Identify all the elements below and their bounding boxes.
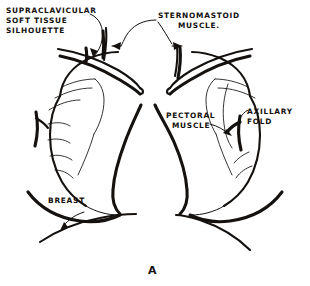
right-sternomastoid-shadow-inner (175, 46, 177, 76)
mediastinal-border-left (113, 105, 141, 214)
right-rib-marking-4 (236, 166, 252, 178)
right-pectoral-curve-2 (223, 84, 232, 148)
label-axillary-line1: AXILLARY (247, 107, 293, 116)
left-clavicle-lateral-tip (140, 88, 143, 94)
left-sternomastoid-shadow (103, 31, 104, 58)
left-breast-shadow (40, 214, 136, 242)
panel-label: A (148, 264, 157, 277)
right-rib-marking-1 (215, 79, 248, 87)
label-breast: BREAST (48, 196, 85, 205)
right-lung-lower-border (192, 206, 224, 215)
left-lateral-chest-wall (50, 96, 86, 206)
label-pectoral-line2: MUSCLE (172, 121, 210, 130)
right-lung-inner-hair (216, 134, 232, 175)
label-supraclavicular-line1: SUPRACLAVICULAR (6, 6, 97, 15)
right-rib-marking-3 (234, 152, 249, 163)
label-axillary-line2: FOLD (247, 117, 272, 126)
label-sternomastoid-line2: MUSCLE. (178, 21, 220, 30)
label-supraclavicular-line3: SILHOUETTE (6, 26, 65, 35)
figure-panel: SUPRACLAVICULAR SOFT TISSUE SILHOUETTE S… (0, 0, 310, 286)
left-lung-lower-border (86, 206, 118, 215)
label-pectoral-line1: PECTORAL (166, 111, 215, 120)
left-lung-inner-hair (78, 134, 94, 175)
sternomastoid-leader-left (121, 20, 156, 46)
left-rib-marking-1 (62, 79, 95, 87)
left-paratracheal-shadow (86, 48, 87, 62)
left-pectoral-curve (94, 79, 104, 134)
right-clavicle-lateral-tip (167, 88, 170, 94)
label-sternomastoid-line1: STERNOMASTOID (158, 11, 240, 20)
chest-diagram-svg: SUPRACLAVICULAR SOFT TISSUE SILHOUETTE S… (0, 0, 310, 286)
sternomastoid-leader-right (158, 22, 172, 44)
label-supraclavicular-line2: SOFT TISSUE (6, 16, 68, 25)
